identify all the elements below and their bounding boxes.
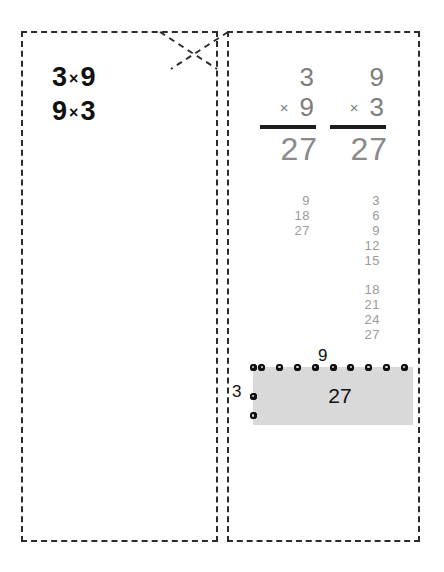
skip-count-list-by-9: 91827 (260, 193, 310, 238)
worksheet-canvas: 3×9 9×3 3 ×9 27 9 ×3 27 91827 3691215182… (0, 0, 444, 572)
area-model-column-dot (276, 364, 283, 371)
area-model-row-dot (250, 393, 257, 400)
area-model-column-dot (347, 364, 354, 371)
front-expr-1-operator: × (67, 70, 80, 87)
front-expr-2-operator: × (67, 104, 80, 121)
vprob-a-rule (260, 125, 316, 129)
area-model-row-dot (250, 364, 257, 371)
area-model-column-dot (401, 364, 408, 371)
vprob-b-product: 27 (316, 132, 394, 166)
skip-count-value: 6 (330, 208, 380, 223)
skip-count-value: 24 (330, 312, 380, 327)
front-expr-1-factor-b: 9 (80, 62, 95, 92)
area-model-column-dot (258, 364, 265, 371)
vprob-a-multiplier: 9 (300, 92, 314, 122)
area-model-column-dot (365, 364, 372, 371)
skip-count-value: 27 (260, 223, 310, 238)
area-model-column-dot (294, 364, 301, 371)
skip-count-value: 18 (260, 208, 310, 223)
skip-count-value: 12 (330, 238, 380, 253)
area-model: 27 9 3 (240, 346, 420, 438)
area-model-column-dot (312, 364, 319, 371)
front-expr-2-factor-a: 9 (52, 96, 67, 126)
skip-count-value: 9 (330, 223, 380, 238)
vertical-problem-9x3: 9 ×3 27 (316, 62, 394, 166)
vprob-b-multiplier-row: ×3 (316, 92, 394, 123)
skip-count-gap (330, 268, 380, 282)
vprob-b-multiplier: 3 (370, 92, 384, 122)
area-model-row-dot (250, 412, 257, 419)
front-expr-1-factor-a: 3 (52, 62, 67, 92)
skip-count-value: 15 (330, 253, 380, 268)
vertical-problem-3x9: 3 ×9 27 (246, 62, 324, 166)
vprob-a-multiplier-row: ×9 (246, 92, 324, 123)
vprob-b-operator: × (350, 99, 359, 116)
skip-count-value: 9 (260, 193, 310, 208)
area-model-column-dot (383, 364, 390, 371)
front-expr-2-factor-b: 3 (80, 96, 95, 126)
skip-count-value: 27 (330, 327, 380, 342)
vprob-a-operator: × (280, 99, 289, 116)
vprob-b-rule (330, 125, 386, 129)
skip-count-list-by-3: 369121518212427 (330, 193, 380, 342)
skip-count-value: 3 (330, 193, 380, 208)
area-model-column-dot (330, 364, 337, 371)
front-expression-2: 9×3 (52, 96, 95, 127)
front-expression-1: 3×9 (52, 62, 95, 93)
skip-count-value: 18 (330, 282, 380, 297)
area-model-row-label: 3 (232, 382, 241, 402)
area-model-column-label: 9 (318, 346, 327, 366)
vprob-b-multiplicand: 9 (316, 62, 394, 92)
vprob-a-multiplicand: 3 (246, 62, 324, 92)
flashcard-front (21, 31, 218, 542)
vprob-a-product: 27 (246, 132, 324, 166)
area-model-total: 27 (253, 367, 413, 425)
skip-count-value: 21 (330, 297, 380, 312)
